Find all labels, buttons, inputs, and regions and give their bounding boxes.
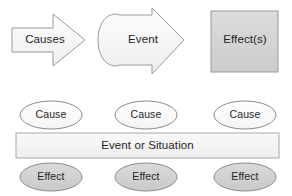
event-bar-label: Event or Situation (16, 140, 279, 152)
cause-ellipse-3-label: Cause (214, 109, 276, 120)
effect-ellipse-2-label: Effect (115, 171, 177, 182)
cause-ellipse-1-label: Cause (20, 109, 82, 120)
diagram-shapes-layer (0, 0, 292, 196)
cause-ellipse-2-label: Cause (115, 109, 177, 120)
effects-box-label: Effect(s) (211, 34, 279, 46)
effect-ellipse-3-label: Effect (214, 171, 276, 182)
effect-ellipse-1-label: Effect (20, 171, 82, 182)
causes-arrow-label: Causes (14, 34, 76, 46)
cause-effect-diagram: Causes Event Effect(s) Cause Cause Cause… (0, 0, 292, 196)
event-arrow-label: Event (112, 34, 174, 46)
